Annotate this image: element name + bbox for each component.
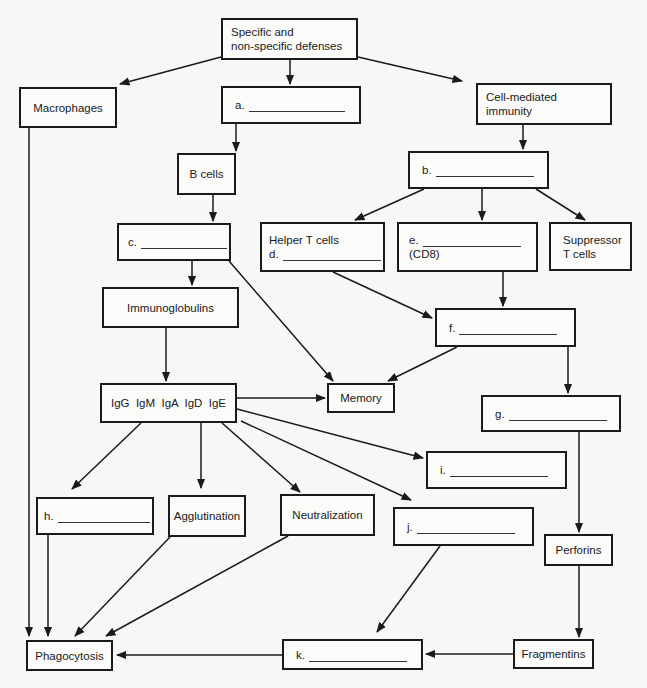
fill-in-blank[interactable]	[309, 651, 407, 662]
node-text: B cells	[190, 167, 224, 181]
node-b-cells: B cells	[177, 153, 236, 195]
node-a-blank: a.	[221, 86, 361, 124]
blank-prefix: f.	[449, 321, 455, 335]
node-text: Neutralization	[292, 508, 362, 522]
blank-prefix: j.	[407, 520, 413, 534]
node-text: Specific and	[231, 26, 294, 38]
concept-map: Specific and non-specific defenses Macro…	[0, 0, 647, 688]
node-text: immunity	[486, 105, 532, 117]
fill-in-blank[interactable]	[283, 250, 381, 261]
node-phagocytosis: Phagocytosis	[26, 640, 113, 671]
node-g-blank: g.	[481, 395, 621, 432]
fill-in-blank[interactable]	[141, 238, 227, 249]
blank-prefix: a.	[235, 98, 245, 112]
node-f-blank: f.	[435, 308, 576, 347]
node-suppressor-t-cells: Suppressor T cells	[549, 222, 632, 271]
node-macrophages: Macrophages	[19, 87, 117, 128]
node-text: T cells	[563, 248, 596, 260]
node-text: Suppressor	[563, 234, 622, 246]
node-b-blank: b.	[408, 151, 549, 189]
fill-in-blank[interactable]	[423, 236, 521, 247]
node-j-blank: j.	[393, 507, 534, 546]
node-text: Phagocytosis	[35, 649, 103, 663]
node-text: Immunoglobulins	[127, 301, 214, 315]
node-text: Agglutination	[174, 509, 241, 523]
fill-in-blank[interactable]	[417, 523, 515, 534]
blank-prefix: e.	[409, 233, 419, 247]
blank-prefix: i.	[440, 463, 446, 477]
blank-prefix: g.	[495, 407, 505, 421]
node-perforins: Perforins	[544, 534, 613, 566]
blank-prefix: c.	[128, 235, 137, 249]
node-c-blank: c.	[117, 223, 231, 261]
node-text: Macrophages	[33, 101, 103, 115]
fill-in-blank[interactable]	[58, 512, 150, 523]
blank-prefix: d.	[269, 247, 279, 261]
node-memory: Memory	[327, 383, 395, 413]
node-text: Memory	[340, 391, 382, 405]
blank-prefix: b.	[422, 163, 432, 177]
node-helper-t-cells: Helper T cells d.	[260, 222, 385, 272]
node-text: IgG IgM IgA IgD IgE	[111, 396, 226, 410]
node-ig-classes: IgG IgM IgA IgD IgE	[100, 383, 237, 423]
node-specific-nonspecific-defenses: Specific and non-specific defenses	[221, 18, 358, 60]
fill-in-blank[interactable]	[509, 410, 607, 421]
fill-in-blank[interactable]	[436, 166, 534, 177]
node-text: non-specific defenses	[231, 40, 342, 52]
blank-prefix: h.	[44, 509, 54, 523]
node-text: Perforins	[555, 543, 601, 557]
node-k-blank: k.	[282, 639, 423, 670]
node-text: Cell-mediated	[486, 91, 557, 103]
node-h-blank: h.	[36, 497, 154, 535]
node-agglutination: Agglutination	[168, 495, 246, 537]
node-i-blank: i.	[426, 451, 567, 489]
node-text: Helper T cells	[269, 234, 339, 246]
node-fragmentins: Fragmentins	[513, 639, 594, 669]
node-cell-mediated-immunity: Cell-mediated immunity	[476, 83, 612, 125]
fill-in-blank[interactable]	[249, 101, 345, 112]
fill-in-blank[interactable]	[459, 324, 557, 335]
node-text: Fragmentins	[522, 647, 586, 661]
node-text: (CD8)	[409, 248, 440, 260]
node-e-cd8: e. (CD8)	[397, 222, 538, 272]
node-neutralization: Neutralization	[280, 494, 375, 536]
fill-in-blank[interactable]	[450, 466, 548, 477]
blank-prefix: k.	[296, 648, 305, 662]
node-immunoglobulins: Immunoglobulins	[102, 287, 239, 328]
